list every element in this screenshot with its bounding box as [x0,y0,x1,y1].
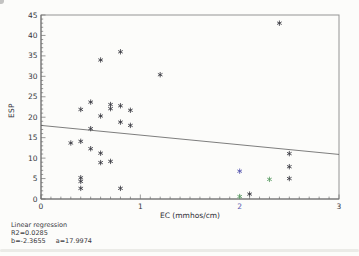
data-point-samples-dark [88,146,93,151]
data-point-samples-dark [128,108,133,113]
data-point-samples-dark [98,151,103,156]
data-point-samples-dark [78,186,83,191]
data-point-samples-green [237,194,242,199]
data-point-samples-dark [118,186,123,191]
data-point-samples-dark [108,159,113,164]
plot-frame [41,15,339,199]
y-tick-label: 35 [28,51,38,60]
figure-canvas: 0123051015202530354045 ESP EC (mmhos/cm)… [0,0,359,256]
data-point-samples-dark [118,49,123,54]
y-tick-label: 5 [33,174,38,183]
data-point-samples-dark [287,164,292,169]
y-tick-label: 0 [33,195,38,204]
data-point-samples-dark [78,107,83,112]
annotation-r2: R2=0.0285 [11,229,92,237]
data-point-samples-dark [158,72,163,77]
data-point-samples-dark [98,160,103,165]
y-tick-label: 15 [28,133,38,142]
data-point-samples-dark [98,113,103,118]
data-point-samples-dark [287,151,292,156]
x-axis-title: EC (mmhos/cm) [41,211,339,220]
annotation-coeffs: b=-2.3655a=17.9974 [11,237,92,245]
data-point-samples-dark [128,123,133,128]
data-point-samples-dark [98,57,103,62]
annotation-a: a=17.9974 [56,237,92,245]
data-point-samples-dark [287,176,292,181]
data-point-samples-dark [108,106,113,111]
x-tick-label: 1 [138,202,143,211]
y-tick-label: 20 [28,113,38,122]
x-tick-label: 0 [39,202,44,211]
regression-line [41,125,339,154]
annotation-title: Linear regression [11,221,92,229]
data-point-samples-dark [247,191,252,196]
regression-annotation: Linear regression R2=0.0285 b=-2.3655a=1… [11,221,92,245]
y-axis-title: ESP [7,103,16,118]
data-point-samples-dark [88,99,93,104]
y-tick-label: 30 [28,72,38,81]
x-tick-label: 3 [337,202,342,211]
data-point-samples-dark [78,139,83,144]
scan-artifact-smudge [0,249,359,252]
y-tick-label: 40 [28,31,38,40]
data-point-sample-blue [237,168,242,173]
data-point-samples-dark [78,179,83,184]
data-point-samples-green [267,177,272,182]
data-point-samples-dark [277,20,282,25]
x-tick-label: 2 [237,202,242,211]
data-point-samples-dark [118,103,123,108]
y-tick-label: 10 [28,154,38,163]
data-point-samples-dark [68,140,73,145]
annotation-b: b=-2.3655 [11,237,46,245]
data-point-samples-dark [118,119,123,124]
y-tick-label: 45 [28,11,38,20]
y-tick-label: 25 [28,92,38,101]
